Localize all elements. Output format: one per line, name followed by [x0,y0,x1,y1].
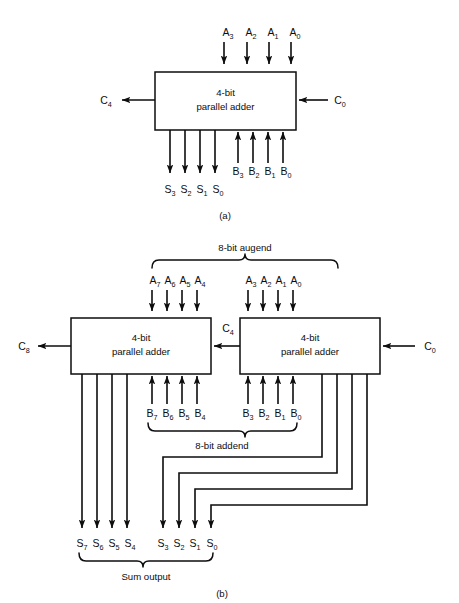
diagram-b-carry-in: C0 [383,340,436,355]
diagram-b-s-high-outputs: S7 S6 S5 S4 [76,374,135,552]
caption-a: (a) [219,210,231,221]
input-label-b-b1: B1 [274,407,285,422]
input-label-b-b0: B0 [290,407,301,422]
adder-block-b-left-line2: parallel adder [112,346,171,357]
carry-out-label-c4: C4 [100,94,112,109]
input-label-a1: A1 [267,26,278,41]
input-label-b5: B5 [178,407,189,422]
input-label-a0: A0 [289,26,300,41]
adder-block-b-right-line1: 4-bit [301,332,320,343]
input-label-a6: A6 [164,274,175,289]
figure-canvas: A3 A2 A1 A0 4-bit parallel adder C4 C0 [0,0,459,603]
adder-diagram-svg: A3 A2 A1 A0 4-bit parallel adder C4 C0 [0,0,459,603]
input-label-b-b2: B2 [258,407,269,422]
input-label-a7: A7 [149,274,160,289]
wire-b-s0 [211,374,367,528]
addend-brace [148,423,297,437]
adder-block-b-right-line2: parallel adder [281,346,340,357]
augend-brace [152,254,338,268]
output-label-b-s0: S0 [206,537,217,552]
carry-in-label-c0: C0 [334,94,346,109]
diagram-a-a-inputs: A3 A2 A1 A0 [222,26,300,64]
carry-mid-label-c4: C4 [222,322,234,337]
output-label-s7: S7 [76,537,87,552]
adder-block-a-line1: 4-bit [216,87,235,98]
output-label-b-s2: S2 [173,537,184,552]
input-label-b-a0: A0 [290,274,301,289]
input-label-a5: A5 [179,274,190,289]
augend-group-label: 8-bit augend [218,242,271,253]
output-label-b-s1: S1 [189,537,200,552]
diagram-b-carry-mid: C4 [214,322,240,346]
input-label-a2: A2 [245,26,256,41]
carry-in-label-b-c0: C0 [424,340,436,355]
sum-output-label: Sum output [121,571,170,582]
input-label-b1: B1 [264,165,275,180]
caption-b: (b) [216,588,228,599]
output-label-s3: S3 [164,183,175,198]
diagram-a: A3 A2 A1 A0 4-bit parallel adder C4 C0 [100,26,346,221]
output-label-s0: S0 [212,183,223,198]
diagram-a-s-outputs: S3 S2 S1 S0 [164,130,223,198]
diagram-b-a-high-inputs: A7 A6 A5 A4 [149,274,205,311]
diagram-b-carry-out: C8 [18,340,71,355]
adder-block-b-left-line1: 4-bit [132,332,151,343]
output-label-s2: S2 [180,183,191,198]
output-label-s6: S6 [92,537,103,552]
diagram-b: 8-bit augend A7 A6 A5 A4 A3 A2 A1 A0 4-b… [18,242,436,599]
input-label-b2: B2 [248,165,259,180]
input-label-b-a3: A3 [245,274,256,289]
diagram-a-carry-out: C4 [100,94,155,109]
input-label-b-a1: A1 [275,274,286,289]
carry-out-label-c8: C8 [18,340,30,355]
input-label-a4: A4 [194,274,205,289]
sum-output-brace [79,553,213,567]
input-label-b3: B3 [232,165,243,180]
input-label-a3: A3 [222,26,233,41]
diagram-b-b-low-inputs: B3 B2 B1 B0 [242,376,301,422]
input-label-b6: B6 [162,407,173,422]
output-label-s1: S1 [196,183,207,198]
adder-block-a-line2: parallel adder [196,101,255,112]
input-label-b-b3: B3 [242,407,253,422]
addend-group-label: 8-bit addend [195,440,248,451]
output-label-b-s3: S3 [157,537,168,552]
input-label-b-a2: A2 [260,274,271,289]
diagram-a-carry-in: C0 [299,94,346,109]
diagram-a-b-inputs: B3 B2 B1 B0 [232,132,291,180]
input-label-b0: B0 [280,165,291,180]
diagram-b-a-low-inputs: A3 A2 A1 A0 [245,274,301,311]
input-label-b7: B7 [146,407,157,422]
output-label-s4: S4 [124,537,135,552]
diagram-b-b-high-inputs: B7 B6 B5 B4 [146,376,205,422]
output-label-s5: S5 [108,537,119,552]
input-label-b4: B4 [194,407,205,422]
